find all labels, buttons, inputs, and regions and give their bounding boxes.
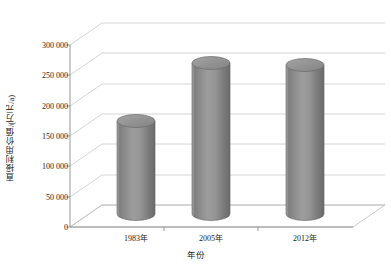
bar-body-2005 (192, 63, 230, 221)
gridline-300000 (70, 23, 385, 45)
y-tick-label-200000: 200 000 (18, 102, 68, 111)
figure-caption (0, 271, 391, 279)
y-tick-label-100000: 100 000 (18, 162, 68, 171)
y-axis-title: 直接利用价值/(万元/a) (4, 62, 18, 214)
x-axis-ticks (164, 227, 258, 231)
bar-top-2005 (192, 57, 230, 70)
x-tick-label-2012: 2012年 (270, 232, 340, 243)
y-tick-label-250000: 250 000 (18, 71, 68, 80)
x-tick-label-1983: 1983年 (101, 232, 171, 243)
bar-top-1983 (117, 115, 155, 128)
bar-2012[interactable] (286, 59, 324, 221)
y-tick-label-150000: 150 000 (18, 132, 68, 141)
bar-body-2012 (286, 65, 324, 221)
bar-2005[interactable] (192, 57, 230, 221)
y-tick-label-300000: 300 000 (18, 41, 68, 50)
bar-top-2012 (286, 59, 324, 72)
y-tick-label-50000: 50 000 (18, 193, 68, 202)
x-axis-title: 年份 (0, 248, 391, 260)
chart-figure: 直接利用价值/(万元/a) 300 000 250 000 200 000 15… (0, 0, 391, 279)
x-tick-label-2005: 2005年 (176, 232, 246, 243)
y-tick-label-0: 0 (18, 223, 68, 232)
bar-body-1983 (117, 121, 155, 221)
bar-1983[interactable] (117, 115, 155, 221)
